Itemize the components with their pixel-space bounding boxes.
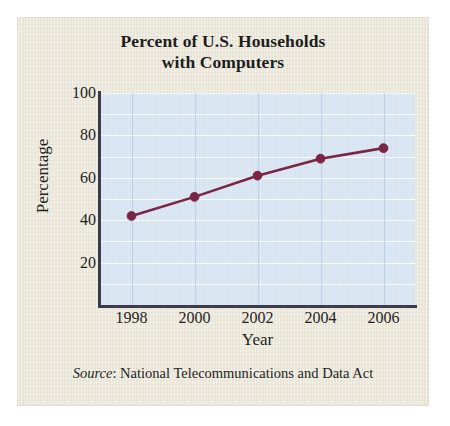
data-point-marker	[316, 154, 325, 163]
chart-title: Percent of U.S. Households with Computer…	[18, 31, 428, 73]
x-axis-tick-labels: 19982000200220042006	[100, 309, 430, 331]
x-axis-tick-label: 2004	[291, 309, 351, 327]
y-axis-tick-label: 100	[50, 85, 96, 101]
x-axis-tick-label: 2002	[228, 309, 288, 327]
source-separator: :	[112, 365, 116, 381]
data-series	[100, 93, 415, 305]
chart-title-line-1: Percent of U.S. Households	[18, 31, 428, 52]
data-point-marker	[379, 144, 388, 153]
series-line	[132, 148, 384, 216]
y-axis-tick-label: 80	[50, 127, 96, 143]
data-point-marker	[253, 171, 262, 180]
y-axis-tick-label: 40	[50, 212, 96, 228]
y-axis-tick-label: 20	[50, 255, 96, 271]
x-axis-tick-label: 2006	[354, 309, 414, 327]
plot-wrapper	[100, 93, 415, 305]
x-axis-line	[98, 305, 417, 308]
data-point-marker	[190, 192, 199, 201]
figure-panel: Percent of U.S. Households with Computer…	[18, 18, 428, 405]
x-axis-tick-label: 2000	[165, 309, 225, 327]
x-axis-title: Year	[100, 330, 415, 350]
data-point-marker	[127, 212, 136, 221]
source-text: National Telecommunications and Data Act	[120, 365, 373, 381]
source-label: Source	[73, 365, 113, 381]
chart-title-line-2: with Computers	[18, 52, 428, 73]
x-axis-tick-label: 1998	[102, 309, 162, 327]
y-axis-tick-labels: 10080604020	[44, 93, 96, 305]
source-note: Source: National Telecommunications and …	[18, 365, 428, 382]
y-axis-tick-label: 60	[50, 170, 96, 186]
